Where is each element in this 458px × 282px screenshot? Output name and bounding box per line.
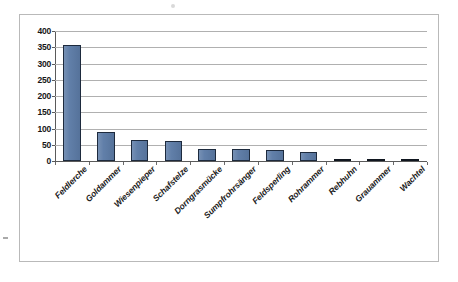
y-axis-tick-mark <box>52 80 55 81</box>
bar <box>266 150 284 161</box>
gridline <box>55 129 427 130</box>
gridline <box>55 112 427 113</box>
gridline <box>55 80 427 81</box>
y-axis-tick-label: 400 <box>37 26 51 36</box>
bar <box>131 140 149 161</box>
y-axis-tick-label: 100 <box>37 124 51 134</box>
bar <box>198 149 216 161</box>
y-axis-tick-label: 250 <box>37 75 51 85</box>
y-axis-tick-label: 50 <box>42 140 51 150</box>
gridline <box>55 96 427 97</box>
scan-artifact-top <box>171 4 175 8</box>
gridline <box>55 64 427 65</box>
bar <box>165 141 183 161</box>
y-axis-tick-mark <box>52 64 55 65</box>
y-axis-tick-mark <box>52 129 55 130</box>
scan-artifact-left <box>3 237 8 239</box>
bar <box>401 159 419 161</box>
y-axis-tick-mark <box>52 31 55 32</box>
x-axis-category-label: Grauammer <box>353 164 393 204</box>
x-axis-tick-mark <box>427 162 428 165</box>
bar <box>334 159 352 161</box>
y-axis-tick-mark <box>52 145 55 146</box>
y-axis-tick-mark <box>52 112 55 113</box>
bar <box>97 132 115 161</box>
gridline <box>55 31 427 32</box>
bar <box>300 152 318 161</box>
x-axis-category-labels: FeldlercheGoldammerWiesenpieperSchafstel… <box>55 164 427 260</box>
bar <box>367 159 385 161</box>
y-axis-tick-mark <box>52 96 55 97</box>
chart-plot-wrapper: 050100150200250300350400 FeldlercheGolda… <box>20 15 438 261</box>
y-axis-tick-label: 200 <box>37 91 51 101</box>
x-axis-category-label: Rebhuhn <box>327 164 360 197</box>
bar <box>232 149 250 161</box>
plot-area <box>55 31 427 162</box>
y-axis-tick-label: 150 <box>37 107 51 117</box>
y-axis-tick-label: 0 <box>46 156 51 166</box>
y-axis-tick-mark <box>52 47 55 48</box>
chart-container: 050100150200250300350400 FeldlercheGolda… <box>19 14 439 262</box>
x-axis-category-label: Wachtel <box>398 164 428 194</box>
x-axis-line <box>55 161 427 162</box>
y-axis-tick-labels: 050100150200250300350400 <box>20 31 53 162</box>
bar <box>63 45 81 161</box>
y-axis-tick-label: 300 <box>37 59 51 69</box>
gridline <box>55 47 427 48</box>
y-axis-tick-label: 350 <box>37 42 51 52</box>
